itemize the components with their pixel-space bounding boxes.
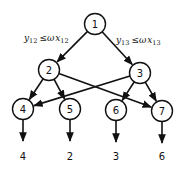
edge-3-6	[122, 82, 134, 101]
outputs-layer: 4236	[20, 120, 165, 163]
node-7: 7	[152, 101, 173, 122]
node-1: 1	[85, 14, 106, 35]
node-label-7: 7	[159, 106, 165, 117]
node-4: 4	[13, 99, 34, 120]
node-5: 5	[60, 99, 81, 120]
constraint-label-1-3: y13≤ωx13	[115, 35, 161, 47]
output-value-4: 4	[20, 151, 26, 162]
node-3: 3	[130, 63, 151, 84]
node-label-6: 6	[113, 105, 119, 116]
node-6: 6	[106, 100, 127, 121]
output-value-7: 6	[159, 151, 165, 162]
node-label-2: 2	[46, 65, 52, 76]
node-label-4: 4	[20, 104, 26, 115]
node-label-5: 5	[67, 104, 73, 115]
output-value-5: 2	[67, 151, 73, 162]
edge-1-2	[57, 31, 87, 61]
edge-2-4	[29, 79, 43, 100]
output-value-6: 3	[113, 151, 119, 162]
node-label-3: 3	[137, 68, 143, 79]
node-label-1: 1	[92, 19, 98, 30]
edge-3-7	[145, 82, 156, 101]
constraint-label-1-2: y12≤ωx12	[23, 33, 69, 45]
node-2: 2	[39, 60, 60, 81]
network-diagram: 4236 1234567 y12≤ωx12 y13≤ωx13	[0, 0, 181, 173]
